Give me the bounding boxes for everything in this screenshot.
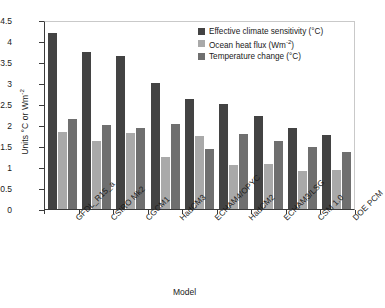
y-axis-tick-label: 1.5 bbox=[0, 142, 12, 152]
y-axis-tick-label: 1 bbox=[0, 163, 12, 173]
bar-group bbox=[320, 22, 354, 209]
legend-color-swatch bbox=[198, 53, 205, 60]
bar bbox=[82, 52, 91, 209]
bar-group bbox=[148, 22, 182, 209]
legend-label: Ocean heat flux (Wm-2) bbox=[209, 39, 294, 50]
y-axis-tick-label: 3.5 bbox=[0, 58, 12, 68]
y-axis-tick-label: 0.5 bbox=[0, 184, 12, 194]
legend-label: Effective climate sensitivity (°C) bbox=[209, 27, 323, 36]
bar bbox=[116, 56, 125, 209]
bar bbox=[254, 116, 263, 209]
y-axis-tick-label: 2.5 bbox=[0, 100, 12, 110]
bar bbox=[48, 33, 57, 209]
y-axis-tick-label: 0 bbox=[0, 205, 12, 215]
legend-color-swatch bbox=[198, 28, 205, 35]
x-axis-tick-mark bbox=[44, 210, 45, 214]
legend-item: Ocean heat flux (Wm-2) bbox=[198, 39, 323, 50]
x-axis-title: Model bbox=[0, 287, 369, 297]
bar bbox=[68, 119, 77, 209]
bar bbox=[322, 135, 331, 209]
y-axis-title: Units °C or Wm-2 bbox=[18, 52, 30, 192]
bar-group bbox=[114, 22, 148, 209]
y-axis-tick-label: 4 bbox=[0, 37, 12, 47]
bar bbox=[288, 128, 297, 209]
chart-legend: Effective climate sensitivity (°C)Ocean … bbox=[198, 27, 323, 63]
legend-item: Temperature change (°C) bbox=[198, 52, 323, 61]
bar-group bbox=[45, 22, 79, 209]
x-axis-tick-label: DOE PCM bbox=[351, 188, 385, 222]
y-axis-title-exponent: -2 bbox=[18, 89, 25, 95]
legend-label-exponent: -2 bbox=[286, 39, 291, 45]
y-axis-tick-label: 3 bbox=[0, 79, 12, 89]
bar bbox=[185, 99, 194, 209]
y-axis-tick-label: 4.5 bbox=[0, 16, 12, 26]
y-axis-title-text: Units °C or Wm bbox=[20, 95, 30, 155]
bar bbox=[58, 132, 67, 209]
bar bbox=[151, 83, 160, 209]
legend-label: Temperature change (°C) bbox=[209, 52, 301, 61]
legend-color-swatch bbox=[198, 40, 205, 47]
bar bbox=[171, 124, 180, 209]
legend-item: Effective climate sensitivity (°C) bbox=[198, 27, 323, 36]
y-axis-tick-label: 2 bbox=[0, 121, 12, 131]
bar bbox=[219, 104, 228, 209]
